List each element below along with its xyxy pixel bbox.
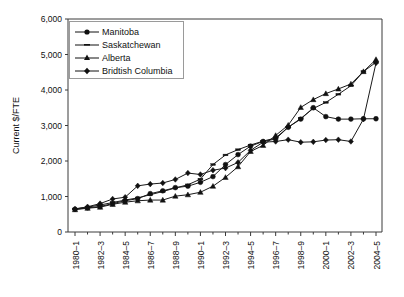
- y-tick-label: 5,000: [41, 50, 63, 60]
- data-point-saskatchewan: [185, 184, 190, 186]
- legend-item-british-columbia: Bridtish Columbia: [74, 64, 179, 77]
- data-point-manitoba: [349, 117, 354, 122]
- x-tick-label: 1990–1: [196, 241, 206, 270]
- data-point-bridtish-columbia: [286, 137, 291, 143]
- legend-marker-triangle-icon: [74, 52, 100, 64]
- data-point-saskatchewan: [248, 144, 253, 146]
- data-point-saskatchewan: [311, 108, 316, 110]
- legend-item-alberta: Alberta: [74, 51, 179, 64]
- data-point-manitoba: [374, 116, 379, 121]
- legend-label: Alberta: [100, 53, 131, 63]
- chart-legend: Manitoba Saskatchewan Alberta Bridtish C…: [69, 21, 184, 79]
- series-line-alberta: [75, 59, 376, 209]
- data-point-alberta: [198, 190, 203, 195]
- x-tick-label: 1988–9: [171, 241, 181, 270]
- x-tick-label: 1980–1: [71, 241, 81, 270]
- chart-figure: 6,0005,0004,0003,0002,0001,00001980–1198…: [0, 0, 404, 297]
- data-point-saskatchewan: [223, 154, 228, 156]
- x-tick-label: 2002–3: [346, 241, 356, 270]
- data-point-bridtish-columbia: [298, 139, 303, 145]
- data-point-manitoba: [198, 180, 203, 185]
- legend-item-manitoba: Manitoba: [74, 25, 179, 38]
- data-point-manitoba: [323, 114, 328, 119]
- data-point-alberta: [298, 105, 303, 110]
- data-point-bridtish-columbia: [311, 139, 316, 145]
- x-tick-label: 1986–7: [146, 241, 156, 270]
- data-point-alberta: [311, 97, 316, 102]
- legend-marker-diamond-icon: [74, 65, 100, 77]
- data-point-alberta: [210, 184, 215, 189]
- series-line-bridtish-columbia: [75, 63, 376, 209]
- line-chart: 6,0005,0004,0003,0002,0001,00001980–1198…: [0, 0, 404, 297]
- series-line-manitoba: [75, 108, 376, 210]
- data-point-saskatchewan: [298, 118, 303, 120]
- y-tick-label: 0: [57, 227, 62, 237]
- legend-label: Manitoba: [100, 27, 139, 37]
- data-point-saskatchewan: [198, 178, 203, 180]
- y-axis-title: Current $/FTE: [11, 97, 21, 154]
- data-point-bridtish-columbia: [185, 170, 190, 176]
- y-tick-label: 2,000: [41, 156, 63, 166]
- x-tick-label: 2000–1: [321, 241, 331, 270]
- data-point-bridtish-columbia: [160, 180, 165, 186]
- x-tick-label: 1994–5: [246, 241, 256, 270]
- data-point-saskatchewan: [323, 102, 328, 104]
- data-point-manitoba: [211, 174, 216, 179]
- x-tick-label: 1992–3: [221, 241, 231, 270]
- legend-marker-dash-icon: [74, 39, 100, 51]
- data-point-saskatchewan: [211, 164, 216, 166]
- x-tick-label: 1984–5: [121, 241, 131, 270]
- data-point-bridtish-columbia: [323, 137, 328, 143]
- y-tick-label: 1,000: [41, 192, 63, 202]
- x-tick-label: 1998–9: [296, 241, 306, 270]
- x-tick-label: 2004–5: [372, 241, 382, 270]
- data-point-saskatchewan: [173, 187, 178, 189]
- data-point-saskatchewan: [336, 93, 341, 95]
- data-point-saskatchewan: [148, 194, 153, 196]
- data-point-saskatchewan: [236, 149, 241, 151]
- data-point-bridtish-columbia: [148, 181, 153, 187]
- y-tick-label: 6,000: [41, 14, 63, 24]
- x-tick-label: 1996–7: [271, 241, 281, 270]
- data-point-bridtish-columbia: [173, 177, 178, 183]
- y-tick-label: 4,000: [41, 85, 63, 95]
- legend-item-saskatchewan: Saskatchewan: [74, 38, 179, 51]
- data-point-bridtish-columbia: [348, 139, 353, 145]
- data-point-manitoba: [236, 152, 241, 157]
- y-tick-label: 3,000: [41, 121, 63, 131]
- legend-label: Bridtish Columbia: [100, 66, 173, 76]
- data-point-saskatchewan: [160, 191, 165, 193]
- legend-label: Saskatchewan: [100, 40, 161, 50]
- data-point-manitoba: [336, 117, 341, 122]
- x-tick-label: 1982–3: [96, 241, 106, 270]
- data-point-bridtish-columbia: [336, 137, 341, 143]
- data-point-bridtish-columbia: [210, 167, 215, 173]
- series-line-saskatchewan: [75, 62, 376, 209]
- legend-marker-circle-icon: [74, 26, 100, 38]
- data-point-bridtish-columbia: [110, 196, 115, 202]
